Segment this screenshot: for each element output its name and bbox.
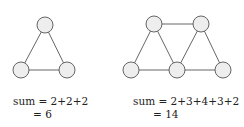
triangle-node [59,62,75,78]
two-triangles-node [169,62,185,78]
edges-layer [21,24,223,70]
right-equation-line1: sum = 2+3+4+3+2 [133,95,239,107]
two-triangles-node [215,62,231,78]
triangle-node [13,62,29,78]
two-triangles-node [123,62,139,78]
triangle-node [37,17,53,33]
nodes-layer [13,16,231,78]
right-equation-line2: = 14 [153,108,179,120]
two-triangles-node [193,16,209,32]
left-equation-line2: = 6 [33,108,52,120]
left-equation-line1: sum = 2+2+2 [13,95,88,107]
two-triangles-node [146,16,162,32]
